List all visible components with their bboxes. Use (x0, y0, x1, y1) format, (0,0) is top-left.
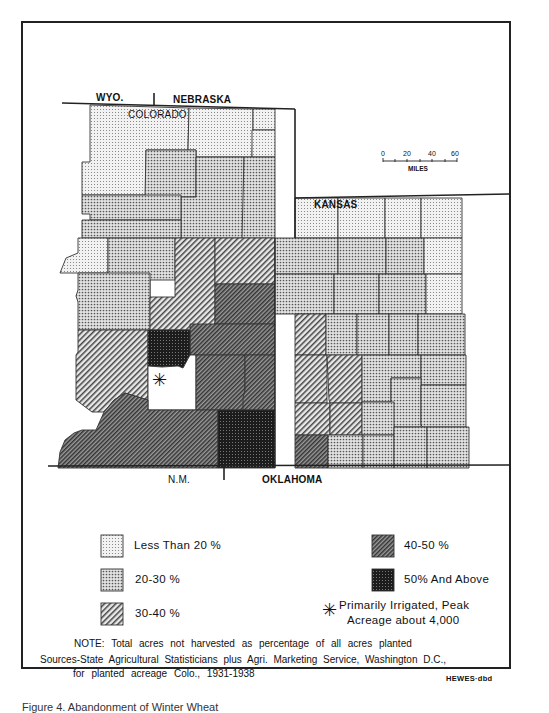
legend-swatch-30to40 (101, 603, 123, 625)
legend-swatch-40to50 (372, 535, 394, 557)
sources-line-2: for planted acreage Colo., 1931-1938 (73, 668, 255, 679)
colorado-counties (58, 105, 275, 468)
scale-tick-20: 20 (403, 150, 411, 157)
legend-label-20to30: 20-30 % (135, 573, 180, 585)
label-colorado: COLORADO (128, 109, 187, 120)
figure-caption: Figure 4. Abandonment of Winter Wheat (22, 701, 218, 713)
scale-tick-40: 40 (428, 150, 436, 157)
label-nebraska: NEBRASKA (173, 94, 231, 105)
legend-irrigated-line1: Primarily Irrigated, Peak (339, 599, 469, 611)
legend-label-30to40: 30-40 % (135, 607, 180, 619)
scale-unit: MILES (408, 165, 428, 172)
sources-line-1: Sources-State Agricultural Statisticians… (40, 654, 446, 665)
irrigated-marker-icon: ✳ (152, 371, 167, 389)
legend-swatch-50plus (372, 569, 394, 591)
legend-label-40to50: 40-50 % (404, 539, 449, 551)
legend-label-lt20: Less Than 20 % (134, 539, 221, 551)
label-wyoming: WYO. (96, 92, 123, 103)
map-credit: HEWES·dbd (446, 674, 492, 683)
scale-tick-60: 60 (451, 150, 459, 157)
label-kansas: KANSAS (314, 199, 357, 210)
label-oklahoma: OKLAHOMA (262, 474, 322, 485)
legend-label-50plus: 50% And Above (404, 573, 489, 585)
note-text: NOTE: Total acres not harvested as perce… (74, 638, 412, 649)
legend-irrigated-line2: Acreage about 4,000 (347, 614, 459, 626)
legend-irrigated-icon: ✳ (322, 601, 337, 619)
label-new-mexico: N.M. (168, 474, 190, 485)
legend-swatch-20to30 (101, 569, 123, 591)
scale-bar (383, 158, 457, 162)
kansas-counties (275, 198, 469, 468)
scale-tick-0: 0 (381, 150, 385, 157)
legend-swatch-lt20 (101, 535, 123, 557)
